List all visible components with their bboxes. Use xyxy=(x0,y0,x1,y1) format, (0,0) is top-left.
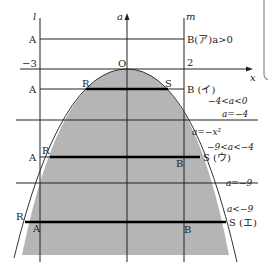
label-b-case4: B xyxy=(184,224,191,235)
label-b-case3: B xyxy=(176,158,183,169)
label-b-case1: B(ア)a>0 xyxy=(187,34,233,45)
label-b-case2: B (イ) xyxy=(187,84,215,95)
label-l: l xyxy=(33,11,36,22)
label-a-case2: A xyxy=(28,84,37,95)
label-s-case4: S (エ) xyxy=(229,217,257,228)
label-x: x xyxy=(250,72,256,83)
shaded-region xyxy=(22,69,229,255)
label-a-minus-9: a=−9 xyxy=(226,178,252,188)
label-minus-3: −3 xyxy=(22,58,37,69)
parabola-diagram: l m a x O −3 2 A B(ア)a>0 A R S B (イ) −4<… xyxy=(0,0,268,276)
label-2: 2 xyxy=(187,57,193,68)
condition-case3: −9<a<−4 xyxy=(207,142,254,152)
label-s-case3: S (ウ) xyxy=(203,152,231,163)
label-a-case3: A xyxy=(28,152,37,163)
page-bracket-decoration xyxy=(264,0,268,80)
label-m: m xyxy=(186,11,195,22)
label-r-case3: R xyxy=(42,145,50,156)
label-a-case4: A xyxy=(32,223,41,234)
label-a-minus-4: a=−4 xyxy=(222,109,248,119)
a-axis-arrow xyxy=(125,13,130,20)
label-s-case2: S xyxy=(165,78,172,89)
condition-case2: −4<a<0 xyxy=(208,96,248,106)
x-axis-arrow xyxy=(246,67,253,72)
label-r-case4: R xyxy=(16,211,24,222)
label-a-case1: A xyxy=(28,34,37,45)
label-curve: a=−x² xyxy=(192,127,222,137)
label-r-case2: R xyxy=(82,78,90,89)
condition-case4: a<−9 xyxy=(227,204,253,214)
label-a: a xyxy=(117,11,123,22)
label-origin: O xyxy=(118,58,126,69)
